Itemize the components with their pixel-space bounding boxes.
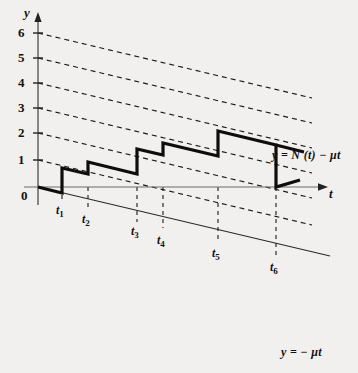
x-axis-label: t xyxy=(329,186,333,202)
y-tick-label-1: 1 xyxy=(18,152,25,168)
dashed-guide-3 xyxy=(38,108,312,173)
y-tick-label-4: 4 xyxy=(18,75,25,91)
y-axis-label: y xyxy=(24,5,30,21)
y-tick-label-3: 3 xyxy=(18,100,25,116)
dashed-guide-4 xyxy=(38,83,312,148)
y-tick-label-0: 0 xyxy=(21,188,28,204)
x-tick-label-t2: t2 xyxy=(82,212,90,228)
x-tick-label-t3: t3 xyxy=(131,224,139,240)
sawtooth-path xyxy=(38,131,300,193)
lower-line-equation-label: y = − μt xyxy=(281,345,322,360)
y-tick-label-5: 5 xyxy=(18,50,25,66)
dashed-drop-lines xyxy=(62,187,276,255)
x-tick-label-t4: t4 xyxy=(157,233,165,249)
dashed-guide-1 xyxy=(38,160,312,225)
x-tick-label-t5: t5 xyxy=(212,246,220,262)
x-tick-label-t6: t6 xyxy=(270,260,278,276)
x-tick-label-t1: t1 xyxy=(56,203,64,219)
y-tick-label-2: 2 xyxy=(18,125,25,141)
y-axis xyxy=(33,12,43,205)
upper-curve-equation-label: y = N (t) − μt xyxy=(272,148,341,163)
dashed-guide-5 xyxy=(38,58,312,123)
sawtooth-figure xyxy=(0,0,358,373)
dashed-guide-6 xyxy=(38,33,312,98)
y-tick-label-6: 6 xyxy=(18,25,25,41)
